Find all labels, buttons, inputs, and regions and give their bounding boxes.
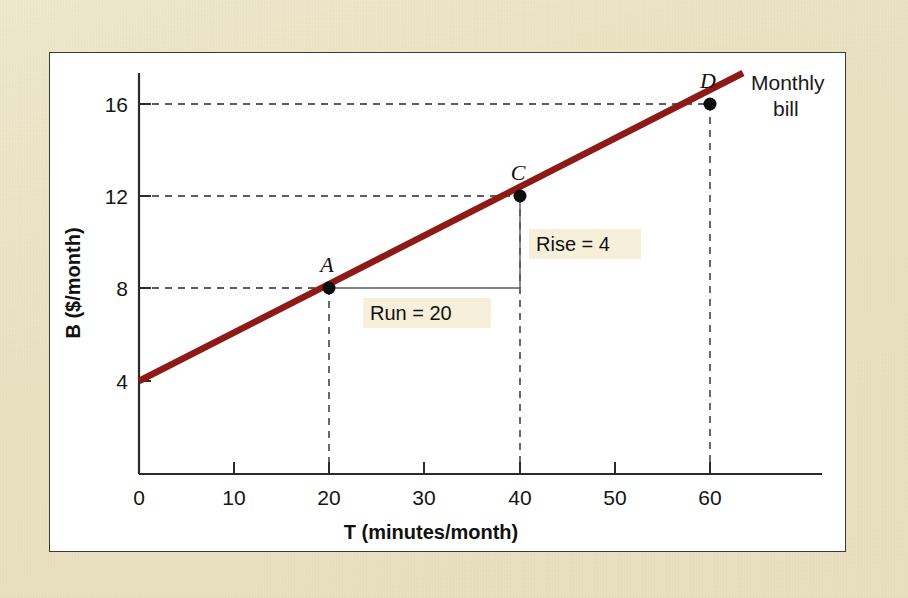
y-axis-title: B ($/month) (62, 227, 84, 338)
x-axis-title: T (minutes/month) (344, 521, 518, 543)
data-point-a[interactable] (323, 282, 336, 295)
annotation-rise: Rise = 4 (529, 229, 641, 259)
x-axis-ticks (139, 462, 710, 474)
figure-page: 0 10 20 30 40 50 60 4 8 12 16 T (minutes… (0, 0, 908, 598)
data-point-label-c: C (511, 160, 526, 185)
x-tick-labels: 0 10 20 30 40 50 60 (133, 486, 722, 509)
y-tick-label-12: 12 (105, 185, 128, 208)
x-tick-label-60: 60 (698, 486, 721, 509)
y-tick-label-16: 16 (105, 93, 128, 116)
rise-run-construction (329, 196, 520, 288)
data-point-label-a: A (318, 252, 334, 277)
data-point-d[interactable] (704, 98, 717, 111)
guide-lines (139, 104, 710, 474)
annotation-rise-text: Rise = 4 (536, 233, 610, 255)
x-tick-label-50: 50 (603, 486, 626, 509)
data-point-label-d: D (699, 68, 716, 93)
data-point-c[interactable] (514, 190, 527, 203)
x-tick-label-0: 0 (133, 486, 145, 509)
y-tick-labels: 4 8 12 16 (105, 93, 129, 393)
x-tick-label-30: 30 (412, 486, 435, 509)
x-tick-label-40: 40 (508, 486, 531, 509)
y-tick-label-4: 4 (116, 370, 128, 393)
data-point-labels: A C D (318, 68, 716, 277)
chart-canvas: 0 10 20 30 40 50 60 4 8 12 16 T (minutes… (50, 53, 845, 550)
annotation-run-text: Run = 20 (370, 302, 452, 324)
figure-panel: 0 10 20 30 40 50 60 4 8 12 16 T (minutes… (49, 52, 846, 552)
y-axis-ticks (139, 104, 151, 381)
series-label-line-1: Monthly (751, 71, 825, 94)
axes (139, 73, 822, 474)
y-tick-label-8: 8 (116, 277, 128, 300)
x-tick-label-10: 10 (222, 486, 245, 509)
monthly-bill-line (139, 73, 743, 381)
series-label-monthly-bill: Monthly bill (751, 71, 825, 120)
series-label-line-2: bill (773, 97, 799, 120)
x-tick-label-20: 20 (317, 486, 340, 509)
annotation-run: Run = 20 (363, 298, 491, 328)
